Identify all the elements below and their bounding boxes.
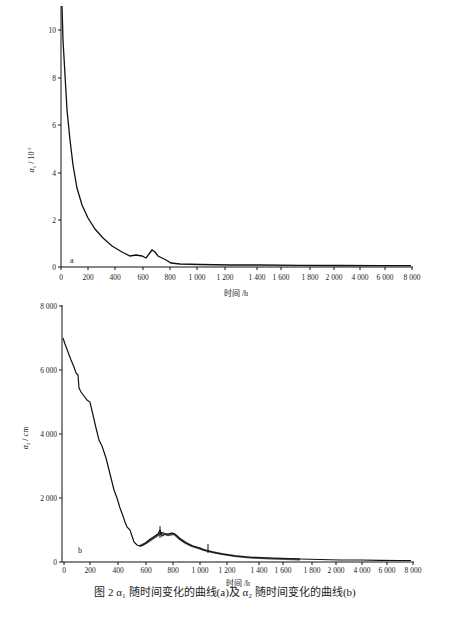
svg-text:6 000: 6 000 xyxy=(379,566,396,575)
y-tick-label: 0 xyxy=(52,263,56,272)
svg-text:1 000: 1 000 xyxy=(189,273,206,282)
svg-text:1 400: 1 400 xyxy=(249,273,266,282)
svg-text:6 000: 6 000 xyxy=(377,273,394,282)
curve-alpha1 xyxy=(62,6,411,266)
svg-text:4 000: 4 000 xyxy=(40,430,57,439)
svg-text:0: 0 xyxy=(53,558,57,567)
svg-text:1 400: 1 400 xyxy=(251,566,268,575)
chart-a: 0 2 4 6 8 10 0 200 400 xyxy=(27,6,421,298)
panel-label-a: a xyxy=(70,256,74,265)
y-tick-label: 8 xyxy=(52,74,56,83)
svg-text:α1 / 10-3: α1 / 10-3 xyxy=(27,147,37,173)
curve-alpha2 xyxy=(63,338,411,561)
svg-text:α2 / cm: α2 / cm xyxy=(21,426,31,449)
y-tick-label: 2 xyxy=(52,216,56,225)
svg-text:4 000: 4 000 xyxy=(354,566,371,575)
svg-text:600: 600 xyxy=(137,273,149,282)
y-axis-label-a: α1 / 10-3 xyxy=(27,147,37,173)
svg-text:200: 200 xyxy=(84,566,96,575)
y-tick-labels-b: 0 2 000 4 000 6 000 8 000 xyxy=(40,302,57,567)
svg-text:0: 0 xyxy=(62,566,66,575)
curve-alpha2-noise xyxy=(140,533,300,559)
y-tick-label: 6 xyxy=(52,121,56,130)
svg-text:6 000: 6 000 xyxy=(40,366,57,375)
svg-text:2 000: 2 000 xyxy=(40,494,57,503)
figure-canvas: 0 2 4 6 8 10 0 200 400 xyxy=(0,0,450,629)
svg-text:800: 800 xyxy=(164,273,176,282)
svg-text:1 200: 1 200 xyxy=(219,566,236,575)
svg-text:800: 800 xyxy=(167,566,179,575)
svg-text:8 000: 8 000 xyxy=(404,273,421,282)
y-ticks-a: 0 2 4 6 8 10 xyxy=(49,26,62,272)
y-tick-label: 10 xyxy=(49,26,57,35)
y-tick-label: 4 xyxy=(52,169,56,178)
svg-text:8 000: 8 000 xyxy=(405,566,422,575)
svg-text:1 600: 1 600 xyxy=(275,566,292,575)
svg-text:600: 600 xyxy=(140,566,152,575)
svg-text:4 000: 4 000 xyxy=(352,273,369,282)
chart-b: 0 2 000 4 000 6 000 8 000 0 200 400 xyxy=(21,302,422,588)
x-tick-labels-a: 0 200 400 600 800 1 000 1 200 1 400 1 60… xyxy=(59,273,421,282)
x-axis-label-a: 时间 /h xyxy=(224,288,248,298)
svg-text:1 800: 1 800 xyxy=(304,566,321,575)
svg-text:1 800: 1 800 xyxy=(302,273,319,282)
x-tick-labels-b: 0 200 400 600 800 1 000 1 200 1 400 1 60… xyxy=(62,566,422,575)
svg-text:400: 400 xyxy=(112,566,124,575)
svg-text:0: 0 xyxy=(59,273,63,282)
figure-caption: 图 2 α₁ 随时间变化的曲线(a)及 α₂ 随时间变化的曲线(b) xyxy=(0,583,450,599)
y-axis-label-b: α2 / cm xyxy=(21,426,31,449)
svg-text:1 200: 1 200 xyxy=(217,273,234,282)
svg-text:2 000: 2 000 xyxy=(326,273,343,282)
svg-text:8 000: 8 000 xyxy=(40,302,57,311)
svg-text:200: 200 xyxy=(82,273,94,282)
svg-text:1 000: 1 000 xyxy=(192,566,209,575)
panel-label-b: b xyxy=(78,546,82,555)
svg-text:400: 400 xyxy=(109,273,121,282)
svg-text:2 000: 2 000 xyxy=(328,566,345,575)
svg-text:1 600: 1 600 xyxy=(273,273,290,282)
